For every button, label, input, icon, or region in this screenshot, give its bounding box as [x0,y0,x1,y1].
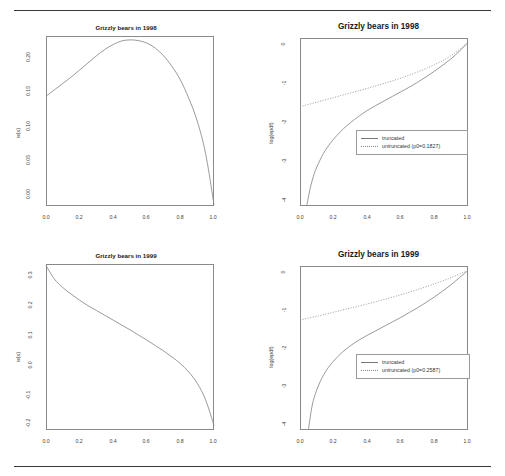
y-tick-label: -3 [281,384,287,389]
x-tick-label: 0.8 [170,438,190,444]
legend-label: truncated [382,359,404,365]
y-tick-label: 0 [280,43,286,46]
x-tick-label: 0.2 [69,214,89,220]
series-line [300,43,468,107]
x-tick-label: 1.0 [457,438,477,444]
panel-title-bottom-left: Grizzly bears in 1999 [0,252,252,259]
x-tick-label: 0.6 [390,214,410,220]
series-line [300,270,468,320]
panel-bottom-left: Grizzly bears in 1999 w(x) 0.3 0.2 0.1 0… [0,242,252,464]
y-axis-label-top-right: log(epdf) [268,108,274,158]
y-tick-label: -0.1 [25,391,31,400]
x-tick-label: 0.0 [36,438,56,444]
x-tick-label: 0.0 [290,438,310,444]
y-tick-label: -0.2 [25,419,31,428]
y-tick-label: 0 [280,271,286,274]
series-line [46,40,214,205]
panel-top-right: Grizzly bears in 1998 log(epdf) 0 -1 -2 … [252,14,505,242]
y-tick-label: -4 [281,422,287,427]
panel-title-top-right: Grizzly bears in 1998 [252,22,505,31]
y-tick-label: -2 [281,346,287,351]
x-tick-label: 0.4 [357,438,377,444]
x-tick-label: 0.6 [136,214,156,220]
y-tick-label: -1 [281,308,287,313]
x-tick-label: 0.8 [424,214,444,220]
panel-bottom-right: Grizzly bears in 1999 log(epdf) 0 -1 -2 … [252,242,505,464]
x-tick-label: 0.2 [323,438,343,444]
series-line [46,266,214,426]
y-tick-label: 0.00 [25,189,31,199]
y-tick-label: -1 [281,81,287,86]
y-tick-label: 0.2 [27,301,33,308]
y-tick-label: 0.0 [27,361,33,368]
x-tick-label: 1.0 [203,438,223,444]
series-canvas-top-left [46,36,214,206]
x-tick-label: 0.2 [323,214,343,220]
y-tick-label: -2 [281,120,287,125]
legend-label: truncated [382,135,404,141]
legend-top-right: truncated untruncated (p0=0.1827) [356,130,468,155]
x-tick-label: 0.8 [170,214,190,220]
legend-key-dotted-icon [361,143,378,149]
y-axis-label-bottom-left: w(x) [15,337,21,377]
y-tick-label: 0.05 [25,155,31,165]
series-line [307,43,468,206]
y-tick-label: 0.1 [27,331,33,338]
x-tick-label: 0.2 [69,438,89,444]
series-canvas-bottom-left [46,264,214,430]
panel-title-bottom-right: Grizzly bears in 1999 [252,250,505,259]
legend-key-solid-icon [361,135,378,141]
y-axis-label-top-left: w(x) [15,113,21,153]
x-tick-label: 0.4 [103,438,123,444]
x-tick-label: 1.0 [203,214,223,220]
y-axis-label-bottom-right: log(epdf) [268,332,274,382]
y-tick-label: -4 [281,198,287,203]
legend-bottom-right: truncated untruncated (p0=0.2587) [356,354,470,379]
panel-top-left: Grizzly bears in 1998 w(x) 0.20 0.15 0.1… [0,14,252,242]
y-tick-label: 0.10 [25,121,31,131]
legend-key-solid-icon [361,359,378,365]
series-line [308,270,468,430]
x-tick-label: 0.6 [390,438,410,444]
x-tick-label: 0.6 [136,438,156,444]
legend-item: truncated [361,134,463,142]
series-canvas-top-right [300,38,468,206]
x-tick-label: 0.0 [36,214,56,220]
legend-item: untruncated (p0=0.2587) [361,366,465,374]
x-tick-label: 0.0 [290,214,310,220]
y-tick-label: 0.20 [25,52,31,62]
y-tick-label: 0.15 [25,86,31,96]
plot-area-bottom-right: Grizzly bears in 1999 log(epdf) 0 -1 -2 … [252,242,505,464]
plot-area-bottom-left: Grizzly bears in 1999 w(x) 0.3 0.2 0.1 0… [0,242,252,464]
top-horizontal-rule [14,10,491,11]
y-tick-label: -3 [281,159,287,164]
legend-item: untruncated (p0=0.1827) [361,142,463,150]
legend-label: untruncated (p0=0.2587) [382,367,440,373]
series-canvas-bottom-right [300,266,468,430]
x-tick-label: 0.8 [424,438,444,444]
y-tick-label: 0.3 [27,271,33,278]
plot-area-top-left: Grizzly bears in 1998 w(x) 0.20 0.15 0.1… [0,14,252,242]
figure-grid: Grizzly bears in 1998 w(x) 0.20 0.15 0.1… [0,14,505,464]
x-tick-label: 0.4 [357,214,377,220]
bottom-horizontal-rule [14,466,491,467]
legend-key-dotted-icon [361,367,378,373]
x-tick-label: 0.4 [103,214,123,220]
plot-area-top-right: Grizzly bears in 1998 log(epdf) 0 -1 -2 … [252,14,505,242]
panel-title-top-left: Grizzly bears in 1998 [0,24,252,31]
x-tick-label: 1.0 [457,214,477,220]
legend-item: truncated [361,358,465,366]
legend-label: untruncated (p0=0.1827) [382,143,440,149]
